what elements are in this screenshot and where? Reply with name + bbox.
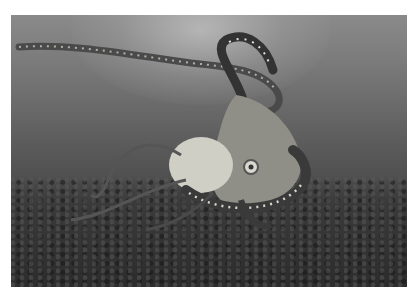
octopus-pupil — [249, 165, 254, 170]
octopus-photo — [11, 15, 407, 287]
octopus-illustration — [11, 15, 407, 287]
octopus-head — [169, 137, 233, 193]
arm-left-1 — [91, 145, 181, 197]
arm-left-2 — [71, 180, 186, 220]
